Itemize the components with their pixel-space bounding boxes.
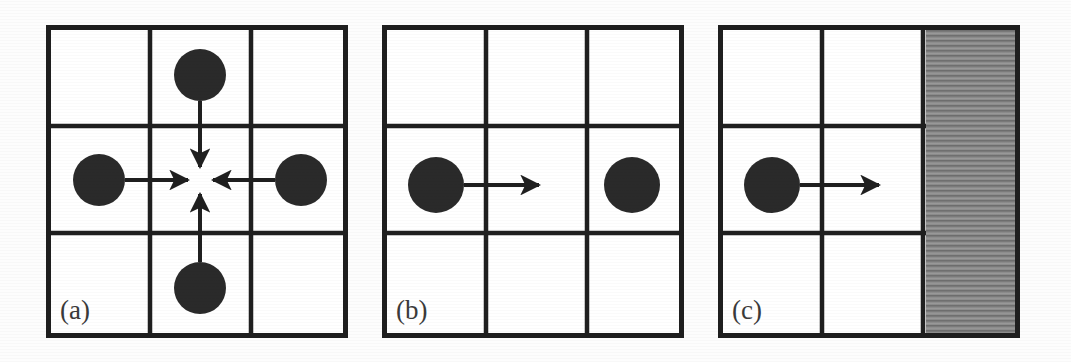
panel-a: (a) xyxy=(46,25,348,338)
panel-c: (c) xyxy=(718,25,1020,338)
panel-b-caption: (b) xyxy=(396,297,427,324)
solid-wall-column xyxy=(926,30,1015,333)
particle-top xyxy=(174,49,226,101)
particle-moving xyxy=(744,157,800,213)
particle-left xyxy=(73,154,125,206)
panel-b: (b) xyxy=(382,25,684,338)
figure-root: (a) (b) xyxy=(0,0,1071,362)
panel-a-canvas xyxy=(46,25,348,338)
panel-c-caption: (c) xyxy=(732,297,762,324)
particle-bottom xyxy=(174,262,226,314)
panel-a-caption: (a) xyxy=(60,297,90,324)
panel-b-canvas xyxy=(382,25,684,338)
panel-c-canvas xyxy=(718,25,1020,338)
particle-right xyxy=(275,154,327,206)
particle-moving xyxy=(408,157,464,213)
particle-target xyxy=(604,157,660,213)
